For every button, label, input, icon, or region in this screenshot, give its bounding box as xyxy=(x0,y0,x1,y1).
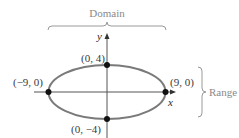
range-label: Range xyxy=(209,86,237,98)
y-axis-label: y xyxy=(96,30,102,42)
point-bottom xyxy=(104,116,110,122)
y-axis-arrow-icon xyxy=(105,33,110,39)
x-axis-label: x xyxy=(167,96,173,108)
point-bottom-label: (0, −4) xyxy=(71,123,101,136)
ellipse-figure: Domain Range x y (0, 4) (0, −4) (−9, 0) … xyxy=(0,0,239,138)
point-right xyxy=(163,89,169,95)
point-top xyxy=(104,62,110,68)
domain-brace xyxy=(48,22,166,30)
point-left-label: (−9, 0) xyxy=(13,76,43,89)
point-left xyxy=(46,89,52,95)
point-right-label: (9, 0) xyxy=(170,76,194,89)
domain-label: Domain xyxy=(89,7,125,19)
point-top-label: (0, 4) xyxy=(81,52,105,65)
x-axis-arrow-icon xyxy=(170,90,176,95)
range-brace xyxy=(198,67,206,117)
